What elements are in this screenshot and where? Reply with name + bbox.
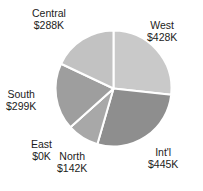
pie-slice-group — [56, 31, 172, 147]
pie-label-north: North $142K — [57, 151, 87, 174]
pie-label-east: East $0K — [31, 139, 52, 162]
pie-chart: Central $288K West $428K South $299K Eas… — [0, 0, 203, 191]
pie-label-south: South $299K — [6, 89, 36, 112]
pie-label-intl-name: Int'l — [148, 147, 178, 159]
pie-label-south-name: South — [6, 89, 36, 101]
pie-label-west-value: $428K — [147, 32, 177, 44]
pie-label-east-name: East — [31, 139, 52, 151]
pie-label-intl-value: $445K — [148, 159, 178, 171]
pie-label-intl: Int'l $445K — [148, 147, 178, 170]
pie-label-central-value: $288K — [32, 20, 66, 32]
pie-label-west-name: West — [147, 20, 177, 32]
pie-label-east-value: $0K — [31, 151, 52, 163]
pie-label-central-name: Central — [32, 8, 66, 20]
pie-label-south-value: $299K — [6, 101, 36, 113]
pie-label-north-name: North — [57, 151, 87, 163]
pie-label-central: Central $288K — [32, 8, 66, 31]
pie-label-west: West $428K — [147, 20, 177, 43]
pie-label-north-value: $142K — [57, 163, 87, 175]
